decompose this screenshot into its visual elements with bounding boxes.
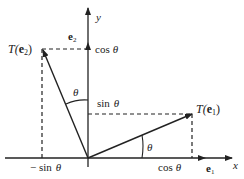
theta-upper-label: θ (73, 86, 79, 98)
e2-label: e2 (68, 30, 77, 44)
T-e2-label: T(e2) (8, 42, 32, 57)
y-axis-label: y (95, 11, 101, 23)
e1-arrow-icon (198, 155, 206, 161)
x-axis-label: x (232, 159, 238, 171)
vector-T-e1 (88, 114, 192, 158)
cos-theta-x-label: cosθ (158, 161, 182, 173)
sin-theta-y-label: sinθ (97, 97, 120, 109)
angle-arc-lower (142, 135, 143, 158)
neg-sin-theta-x-label: − sinθ (30, 161, 62, 173)
angle-arc-upper (66, 100, 88, 104)
e1-label: e1 (206, 162, 215, 176)
T-e1-label: T(e1) (196, 102, 220, 117)
cos-theta-y-label: cosθ (95, 43, 119, 55)
vector-T-e2 (43, 50, 88, 158)
rotation-diagram: y x e2 e1 T(e2) T(e1) cosθ sinθ cosθ − s… (0, 0, 244, 179)
theta-lower-label: θ (147, 141, 153, 153)
